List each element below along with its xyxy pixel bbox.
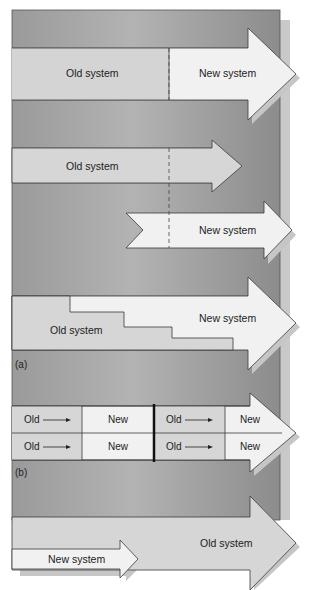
conversion-strategies-diagram: Old system New system Old system New sys… — [0, 0, 312, 590]
old-system-label: Old system — [66, 160, 119, 172]
old-label: Old — [166, 441, 182, 452]
old-system-label: Old system — [200, 537, 253, 549]
old-label: Old — [166, 414, 182, 425]
new-system-label: New system — [48, 553, 105, 565]
new-label: New — [108, 441, 129, 452]
new-system-label: New system — [199, 224, 256, 236]
new-system-label: New system — [199, 312, 256, 324]
old-label: Old — [24, 441, 40, 452]
old-system-label: Old system — [50, 324, 103, 336]
old-system-label: Old system — [66, 67, 119, 79]
caption-b: (b) — [15, 467, 27, 478]
new-label: New — [240, 441, 261, 452]
new-label: New — [108, 414, 129, 425]
old-label: Old — [24, 414, 40, 425]
new-label: New — [240, 414, 261, 425]
caption-a: (a) — [15, 359, 27, 370]
new-system-label: New system — [199, 67, 256, 79]
